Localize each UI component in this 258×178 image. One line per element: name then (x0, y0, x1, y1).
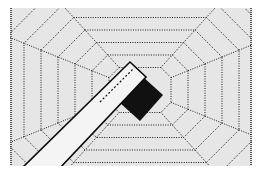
tunnel-illustration (0, 0, 258, 178)
